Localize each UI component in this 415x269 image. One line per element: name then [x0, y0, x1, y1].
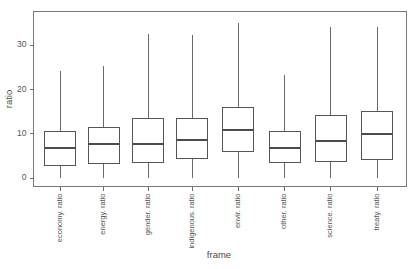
y-tick-label: 20	[17, 84, 27, 94]
x-tick-label: envir. ratio	[233, 194, 242, 229]
y-tick-label: 30	[17, 39, 27, 49]
y-axis-title: ratio	[3, 90, 14, 108]
boxplot-svg: 0102030 economy. ratioenergy. ratiogende…	[0, 0, 415, 269]
x-tick-label: science. ratio	[325, 194, 334, 238]
box-rect	[133, 118, 164, 162]
x-axis-title: frame	[207, 249, 231, 260]
box-group	[133, 34, 164, 178]
box-rect	[269, 131, 300, 163]
y-tick-label: 10	[17, 128, 27, 138]
box-group	[88, 66, 119, 178]
box-rect	[88, 127, 119, 164]
box-group	[269, 75, 300, 178]
box-rect	[315, 115, 346, 161]
x-tick-label: other. ratio	[279, 194, 288, 229]
box-series	[45, 23, 393, 178]
x-tick-label: energy. ratio	[98, 194, 107, 235]
box-group	[45, 71, 76, 178]
y-tick-label: 0	[22, 172, 27, 182]
box-group	[362, 27, 393, 178]
box-group	[177, 35, 208, 178]
boxplot-figure: 0102030 economy. ratioenergy. ratiogende…	[0, 0, 415, 269]
y-axis: 0102030	[17, 39, 33, 182]
box-rect	[362, 112, 393, 160]
box-group	[223, 23, 254, 178]
box-rect	[177, 118, 208, 158]
x-tick-label: indigenous. ratio	[187, 194, 196, 249]
x-axis: economy. ratioenergy. ratiogender. ratio…	[55, 187, 381, 249]
box-group	[315, 27, 346, 178]
x-tick-label: gender. ratio	[143, 194, 152, 236]
x-tick-label: economy. ratio	[55, 194, 64, 243]
x-tick-label: treaty. ratio	[372, 194, 381, 231]
